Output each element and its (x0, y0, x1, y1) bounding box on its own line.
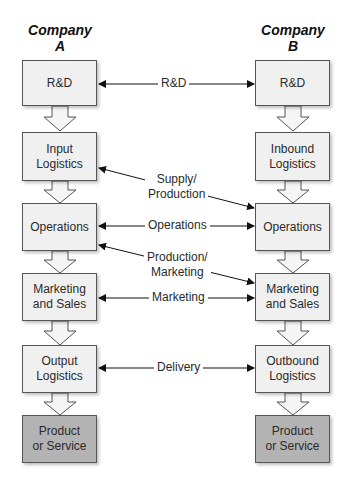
company-b-rd-box: R&D (255, 60, 330, 106)
company-b-outbound-logistics-box: OutboundLogistics (255, 345, 330, 393)
company-a-rd-box: R&D (22, 60, 97, 106)
link-label-production-marketing: Production/ Marketing (144, 250, 211, 280)
company-a-input-logistics-box: InputLogistics (22, 132, 97, 181)
company-a-output-logistics-box: OutputLogistics (22, 345, 97, 393)
link-label-marketing: Marketing (149, 290, 208, 305)
company-a-operations-box: Operations (22, 203, 97, 251)
company-a-product-service-box: Productor Service (22, 415, 97, 463)
link-label-operations: Operations (145, 218, 210, 233)
company-b-inbound-logistics-box: InboundLogistics (255, 132, 330, 181)
company-a-marketing-sales-box: Marketingand Sales (22, 273, 97, 321)
company-b-operations-box: Operations (255, 203, 330, 251)
company-b-marketing-sales-box: Marketingand Sales (255, 273, 330, 321)
link-label-delivery: Delivery (154, 360, 203, 375)
link-label-supply-production: Supply/ Production (145, 172, 208, 202)
link-label-rd: R&D (158, 76, 189, 91)
company-b-product-service-box: Productor Service (255, 415, 330, 463)
